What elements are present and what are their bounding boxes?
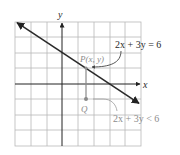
point-p-label: P(x, y) [79,54,104,64]
point-q [84,97,88,101]
point-q-label: Q [81,104,88,114]
y-axis-label: y [57,9,63,20]
q-leader-curve [93,99,117,111]
x-axis-label: x [142,79,148,90]
inequality-graph: x y P(x, y) Q 2x + 3y = 6 2x + 3y < 6 [0,0,180,155]
inequality-label: 2x + 3y < 6 [113,113,159,124]
point-p [84,66,87,69]
equation-label: 2x + 3y = 6 [115,39,161,50]
